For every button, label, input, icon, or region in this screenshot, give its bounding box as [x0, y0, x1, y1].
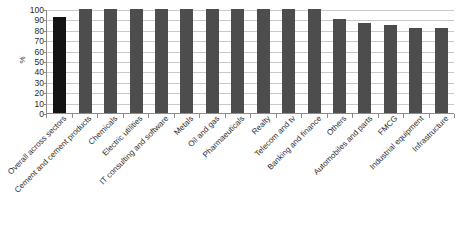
bar-slot — [251, 10, 276, 113]
y-tick-label: 100 — [30, 6, 44, 15]
bar[interactable] — [308, 9, 321, 113]
bar-slot — [98, 10, 123, 113]
y-tick-label: 20 — [35, 89, 44, 98]
y-tick-label: 80 — [35, 27, 44, 36]
bar[interactable] — [231, 9, 244, 113]
bar[interactable] — [206, 9, 219, 113]
bar-slot — [429, 10, 454, 113]
bar-slot — [403, 10, 428, 113]
y-tick-label: 50 — [35, 58, 44, 67]
y-tick-label: 40 — [35, 68, 44, 77]
bar[interactable] — [79, 9, 92, 113]
bar-slot — [327, 10, 352, 113]
plot-area: 0102030405060708090100 — [46, 10, 454, 114]
x-axis-label: Metals — [173, 114, 196, 137]
bar[interactable] — [409, 28, 422, 113]
x-axis-label: Realty — [250, 114, 272, 136]
y-tick-label: 70 — [35, 37, 44, 46]
bar-slot — [149, 10, 174, 113]
y-tick-label: 60 — [35, 47, 44, 56]
bar-slot — [225, 10, 250, 113]
bar-slot — [200, 10, 225, 113]
y-tick-label: 90 — [35, 16, 44, 25]
bar[interactable] — [104, 9, 117, 113]
bar[interactable] — [384, 25, 397, 113]
bar-slot — [72, 10, 97, 113]
bar-slot — [301, 10, 326, 113]
bar-series — [47, 10, 454, 113]
bar[interactable] — [130, 9, 143, 113]
bar-slot — [123, 10, 148, 113]
bar-slot — [276, 10, 301, 113]
bar[interactable] — [333, 19, 346, 113]
bar[interactable] — [282, 9, 295, 113]
y-tick-label: 30 — [35, 79, 44, 88]
x-axis-labels: Overall across sectorsCement and cement … — [0, 114, 458, 238]
bar[interactable] — [53, 17, 66, 113]
x-axis-label: FMCG — [377, 114, 400, 137]
bar[interactable] — [435, 28, 448, 113]
bar[interactable] — [257, 9, 270, 113]
bar[interactable] — [180, 9, 193, 113]
bar-slot — [174, 10, 199, 113]
bar-chart: % 0102030405060708090100 Overall across … — [0, 0, 458, 238]
bar-slot — [352, 10, 377, 113]
x-axis-label: Others — [325, 114, 348, 137]
y-axis-title: % — [13, 50, 33, 70]
y-tick-label: 10 — [35, 99, 44, 108]
bar-slot — [378, 10, 403, 113]
bar[interactable] — [358, 23, 371, 113]
bar-slot — [47, 10, 72, 113]
bar[interactable] — [155, 9, 168, 113]
